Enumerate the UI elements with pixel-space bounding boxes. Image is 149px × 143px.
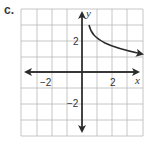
x-axis-label: x — [134, 74, 140, 86]
y-axis-label: y — [85, 7, 91, 19]
y-tick-pos2: 2 — [73, 36, 79, 47]
graph: y x −2 2 2 −2 — [0, 0, 149, 143]
y-tick-neg2: −2 — [67, 98, 79, 109]
x-tick-pos2: 2 — [110, 77, 116, 88]
x-tick-neg2: −2 — [40, 77, 52, 88]
